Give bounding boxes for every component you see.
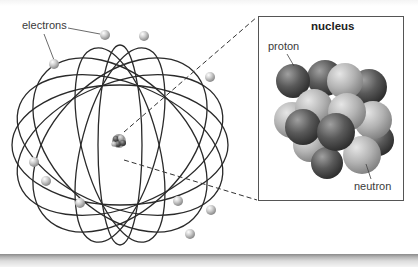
nucleus-detail bbox=[0, 0, 418, 267]
nucleons bbox=[274, 60, 394, 179]
diagram-canvas: electrons nucleus proton neutron bbox=[0, 0, 418, 267]
proton-label: proton bbox=[268, 40, 299, 52]
electrons-label: electrons bbox=[22, 19, 67, 31]
neutron-label: neutron bbox=[354, 180, 391, 192]
nucleus-title: nucleus bbox=[311, 20, 354, 32]
bottom-shadow-border bbox=[0, 254, 418, 267]
